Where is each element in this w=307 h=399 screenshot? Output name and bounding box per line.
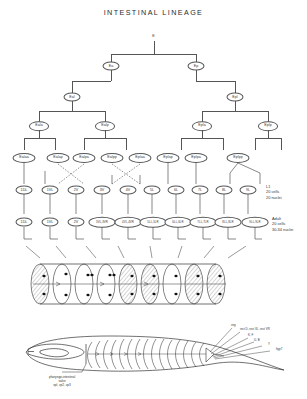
posterior-label-kf: K, F [248,333,254,337]
worm-lumen [88,353,206,356]
edge-Epl-down [235,101,236,111]
adult-cell-1DL[interactable]: 1DL [16,218,33,227]
edge-Ealp-down [105,130,106,138]
edge-to-Eplpa [255,138,256,150]
posterior-label-y: Y [268,342,270,346]
ventral-caption-line3: vpl, vp2, vp3 [53,383,71,387]
edge-to-Ealpa [84,138,85,150]
worm-outline [26,336,284,371]
edge-to-Eplpp [281,138,282,150]
adult-cell-6L[interactable]: 6LL,6LR [165,217,192,228]
intestinal-ring-diagram [0,246,307,312]
l1-to-adult-connectors [0,194,307,216]
edge-gen4-bar-d [255,138,281,139]
adult-cell-1VL[interactable]: 1VL [42,218,59,227]
ring-stack [31,264,232,304]
adult-cell-7L[interactable]: 7LL,7LR [190,217,217,228]
edge-Eal-down [72,101,73,111]
edge-to-Eal [72,81,73,93]
edge-Eala-down [39,130,40,138]
edge-to-Epl [235,81,236,93]
adult-cell-5L[interactable]: 5LL,5LR [140,217,167,228]
figure-title: INTESTINAL LINEAGE [0,8,307,17]
edge-gen1-bar [111,54,196,55]
edge-gen4-bar-a [24,138,55,139]
edge-to-Ealpp [126,138,127,150]
edge-to-Eplap [223,138,224,150]
edge-gen3-bar-right [202,111,268,112]
adult-to-rings-connectors [0,227,307,243]
adult-cell-8L[interactable]: 8LL,8LR [215,217,242,228]
posterior-label-rect: rect D, rect VL, rect VR [240,327,270,331]
adult-cell-2V[interactable]: 2V [68,218,85,227]
adult-cell-9L[interactable]: 9LL,9LR [242,217,269,228]
edge-Epla-down [202,130,203,138]
edge-to-Ealap [55,138,56,150]
edge-Ep-down [196,70,197,81]
ventral-caption-leader [62,364,86,372]
edge-to-Ealaa [24,138,25,150]
edge-gen2-bar-right [196,81,235,82]
edge-gen2-bar-left [72,81,111,82]
edge-to-Eplaa [181,138,182,150]
ring-leader-lines [26,246,246,258]
posterior-label-ub: U, B [254,338,260,342]
worm-anatomy-diagram: pharyngo-intestinal valve vpl, vp2, vp3 … [0,318,307,399]
adult-cell-3V[interactable]: 3VL,3VR [89,217,116,228]
posterior-label-virg: virg [231,323,236,327]
edge-Eplp-down [268,130,269,138]
intestinal-lineage-figure: INTESTINAL LINEAGE E Ea Ep Eal Epl Eala … [0,0,307,399]
lineage-node-E[interactable]: E [149,34,159,40]
adult-cell-4V[interactable]: 4VL,4VR [115,217,142,228]
edge-gen4-bar-c [181,138,223,139]
worm-rectum [206,348,224,362]
posterior-label-hyp7: hyp7 [276,347,283,351]
edge-gen4-bar-b [84,138,126,139]
edge-Ea-down [111,70,112,81]
edge-gen3-bar-left [39,111,105,112]
edge-E-down [154,41,155,54]
